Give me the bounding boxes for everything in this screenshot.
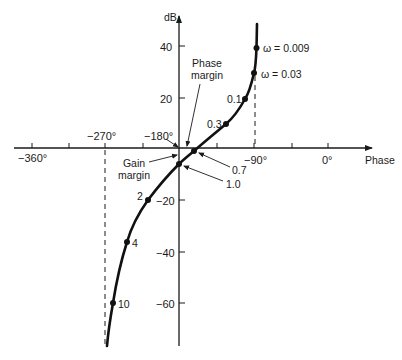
y-tick-label-20: 20 [160,93,172,105]
x-axis: −360° −270° −180° −90° 0° Phase [14,130,395,166]
phase-margin-label-line2: margin [191,69,223,81]
x-tick-label-180: −180° [144,130,173,142]
point-w-0.009 [254,45,260,51]
label-w-2: 2 [137,190,143,202]
y-axis-title: dB [164,11,177,23]
y-tick-label-m40: −40 [156,247,175,259]
point-w-0.1 [242,96,248,102]
x-tick-label-0: 0° [322,154,333,166]
x-tick-label-360: −360° [18,152,47,164]
phase-margin-arrow [187,84,200,146]
label-w-0.3: 0.3 [207,118,222,130]
label-w-0.03: ω = 0.03 [261,68,302,80]
gain-margin-label-line2: margin [118,169,150,181]
leader-w-0.7 [199,153,230,167]
gain-margin-arrow [149,155,177,162]
x-tick-label-270: −270° [87,130,116,142]
point-w-0.03 [251,70,257,76]
label-w-0.009: ω = 0.009 [263,42,310,54]
point-w-1.0 [176,161,182,167]
phase-margin-label-line1: Phase [192,57,222,69]
label-w-4: 4 [132,237,138,249]
label-w-10: 10 [118,298,130,310]
y-tick-label-m60: −60 [156,298,175,310]
y-axis: 40 20 −20 −40 −60 dB [156,11,185,346]
x-axis-title: Phase [365,154,395,166]
point-w-10 [110,300,116,306]
point-w-4 [124,239,130,245]
y-tick-label-40: 40 [160,41,172,53]
label-w-0.1: 0.1 [227,93,242,105]
x-tick-label-90: −90° [244,154,267,166]
nichols-chart: −360° −270° −180° −90° 0° Phase 40 20 −2… [0,0,402,360]
y-tick-label-m20: −20 [156,195,175,207]
annotation-phase-margin: Phase margin [187,57,223,146]
label-w-1.0: 1.0 [226,178,241,190]
point-w-0.7 [191,148,197,154]
label-w-0.7: 0.7 [232,164,247,176]
point-w-0.3 [223,121,229,127]
point-w-2 [145,197,151,203]
gain-margin-label-line1: Gain [123,157,145,169]
leader-w-1.0 [184,166,223,181]
